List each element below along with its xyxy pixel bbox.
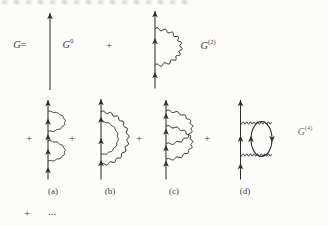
diagram-a [45,100,65,180]
g-symbol: G [63,39,71,50]
interaction-line [166,126,193,160]
plus-sign-bottom: + [24,208,30,219]
plus-sign-before-d: + [204,133,210,144]
figure-green-function-expansion: G= G0 + G(2) + + + + G(4) (a) (b) (c) (d… [0,0,328,226]
interaction-line [155,28,182,67]
plus-sign-row1: + [106,40,112,51]
interaction-line [101,121,118,154]
interaction-line [48,111,65,131]
plus-sign-before-a: + [26,133,32,144]
plus-sign-before-c: + [136,133,142,144]
interaction-line [166,110,193,144]
equals-sign: = [21,39,27,50]
term-label-g4: G(4) [298,125,312,136]
diagram-label-c: (c) [169,187,179,196]
diagram-label-b: (b) [105,187,116,196]
fermion-loop [251,122,272,157]
interaction-line [101,111,129,165]
ellipsis: ... [48,206,56,217]
diagram-label-d: (d) [240,187,251,196]
diagram-d [238,100,275,180]
g-symbol: G [200,40,208,51]
g2-superscript: (2) [208,38,216,45]
term-label-g0: G0 [63,38,74,50]
g4-superscript: (4) [305,124,312,131]
diagram-g2 [152,11,182,89]
bare-propagator-g0 [47,13,53,90]
diagram-c [163,100,193,180]
equation-lhs: G= [13,40,27,51]
term-label-g2: G(2) [200,39,215,51]
g0-superscript: 0 [70,37,73,44]
diagram-b [98,99,129,180]
diagram-label-a: (a) [48,187,58,196]
plus-sign-before-b: + [69,133,75,144]
interaction-line [48,141,65,161]
g-symbol: G [13,39,21,50]
